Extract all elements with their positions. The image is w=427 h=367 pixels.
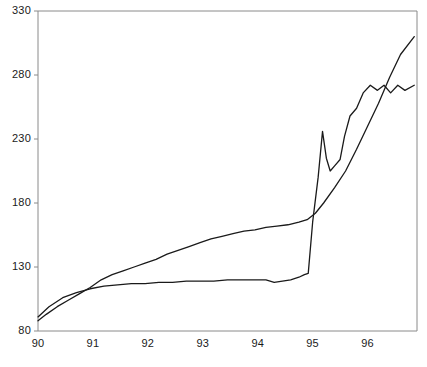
y-axis-tick-label: 130 <box>0 260 31 272</box>
x-axis-tick-label: 90 <box>18 337 58 349</box>
y-axis-tick-label: 230 <box>0 132 31 144</box>
series-line-smooth-series <box>38 37 414 321</box>
series-layer <box>38 37 414 321</box>
y-axis-tick-label: 330 <box>0 4 31 16</box>
y-axis-tick-label: 180 <box>0 196 31 208</box>
y-axis-tick-label: 280 <box>0 68 31 80</box>
series-line-volatile-series <box>38 85 414 317</box>
line-chart-plot <box>0 0 427 367</box>
x-axis-tick-label: 93 <box>183 337 223 349</box>
y-axis-tick-marks <box>34 11 38 331</box>
plot-frame <box>38 11 417 331</box>
x-axis-tick-label: 94 <box>238 337 278 349</box>
chart-container: 80130180230280330 90919293949596 <box>0 0 427 367</box>
x-axis-tick-label: 95 <box>293 337 333 349</box>
x-axis-tick-label: 92 <box>128 337 168 349</box>
y-axis-tick-label: 80 <box>0 324 31 336</box>
x-axis-tick-label: 96 <box>348 337 388 349</box>
x-axis-tick-label: 91 <box>73 337 113 349</box>
